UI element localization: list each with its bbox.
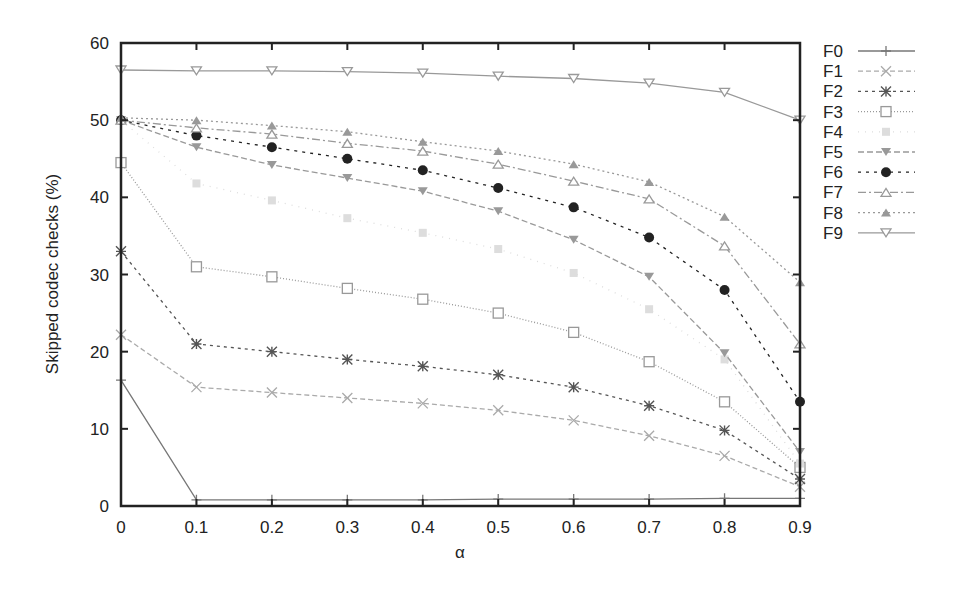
x-tick-label: 0.2: [260, 518, 284, 537]
series-f5: [116, 116, 805, 456]
legend-item-f3: F3: [823, 103, 915, 122]
legend-label: F4: [823, 123, 843, 142]
x-tick-label: 0.7: [637, 518, 661, 537]
series-f9: [116, 66, 805, 124]
y-tick-label: 0: [100, 497, 109, 516]
x-tick-label: 0: [116, 518, 125, 537]
legend-item-f5: F5: [823, 143, 915, 162]
x-tick-label: 0.6: [562, 518, 586, 537]
y-tick-label: 20: [90, 343, 109, 362]
x-tick-label: 0.3: [336, 518, 360, 537]
legend-item-f2: F2: [823, 82, 915, 101]
legend: F0F1F2F3F4F5F6F7F8F9: [823, 42, 915, 243]
y-tick-label: 50: [90, 111, 109, 130]
x-tick-label: 0.8: [713, 518, 737, 537]
axes: 00.10.20.30.40.50.60.70.80.9010203040506…: [90, 34, 812, 537]
y-tick-label: 10: [90, 420, 109, 439]
legend-item-f0: F0: [823, 42, 915, 61]
line-chart: 00.10.20.30.40.50.60.70.80.9010203040506…: [0, 0, 954, 592]
x-tick-label: 0.9: [788, 518, 812, 537]
y-tick-label: 30: [90, 266, 109, 285]
series-layer: [116, 66, 805, 505]
legend-label: F8: [823, 204, 843, 223]
legend-item-f6: F6: [823, 163, 915, 182]
series-f7: [116, 116, 805, 348]
legend-label: F6: [823, 163, 843, 182]
legend-label: F0: [823, 42, 843, 61]
legend-label: F2: [823, 82, 843, 101]
legend-label: F9: [823, 224, 843, 243]
legend-label: F7: [823, 183, 843, 202]
y-tick-label: 40: [90, 188, 109, 207]
legend-item-f1: F1: [823, 62, 915, 81]
series-f2: [116, 246, 805, 484]
plot-frame: [121, 43, 800, 506]
legend-label: F5: [823, 143, 843, 162]
series-f0: [116, 375, 805, 505]
x-tick-label: 0.4: [411, 518, 435, 537]
series-f3: [116, 158, 805, 473]
y-axis-title: Skipped codec checks (%): [43, 174, 62, 374]
legend-label: F3: [823, 103, 843, 122]
legend-item-f9: F9: [823, 224, 915, 243]
series-f4: [117, 116, 804, 467]
series-f6: [116, 115, 805, 407]
y-tick-label: 60: [90, 34, 109, 53]
x-tick-label: 0.1: [185, 518, 209, 537]
legend-item-f8: F8: [823, 204, 915, 223]
legend-label: F1: [823, 62, 843, 81]
legend-item-f4: F4: [823, 123, 915, 142]
series-f1: [116, 330, 805, 492]
series-f8: [116, 114, 805, 286]
x-axis-title: α: [455, 543, 465, 562]
legend-item-f7: F7: [823, 183, 915, 202]
x-tick-label: 0.5: [486, 518, 510, 537]
